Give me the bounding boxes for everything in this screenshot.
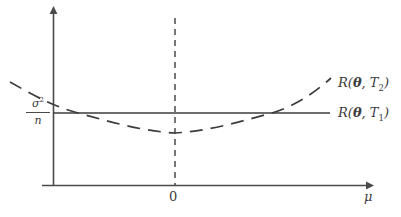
y-axis-label-exponent: 2 xyxy=(40,96,44,104)
y-axis xyxy=(50,6,58,186)
curve-label-t1-theta: θ xyxy=(353,105,362,120)
y-axis-label-denominator: n xyxy=(26,113,50,128)
curve-label-t2-theta: θ xyxy=(353,75,362,90)
curve-label-t2-separator: , xyxy=(362,75,370,90)
curve-label-t1: R(θ, T1) xyxy=(338,106,389,119)
curve-label-t2-suffix: ) xyxy=(384,75,389,90)
curve-label-t1-prefix: R( xyxy=(338,105,353,120)
x-axis-label: μ xyxy=(364,190,372,203)
y-axis-label-numerator: σ2 xyxy=(26,98,50,112)
curve-label-t2: R(θ, T2) xyxy=(338,76,389,89)
curve-label-t1-separator: , xyxy=(362,105,370,120)
curve-label-t2-prefix: R( xyxy=(338,75,353,90)
risk-function-figure: σ2 n 0 μ R(θ, T2) R(θ, T1) xyxy=(0,0,401,217)
curve-label-t1-suffix: ) xyxy=(384,105,389,120)
y-axis-value-label: σ2 n xyxy=(26,98,50,127)
curve-risk-t2 xyxy=(10,78,331,133)
x-axis xyxy=(42,182,374,190)
y-axis-arrowhead-icon xyxy=(50,6,58,14)
x-axis-tick-label-zero: 0 xyxy=(169,190,177,203)
